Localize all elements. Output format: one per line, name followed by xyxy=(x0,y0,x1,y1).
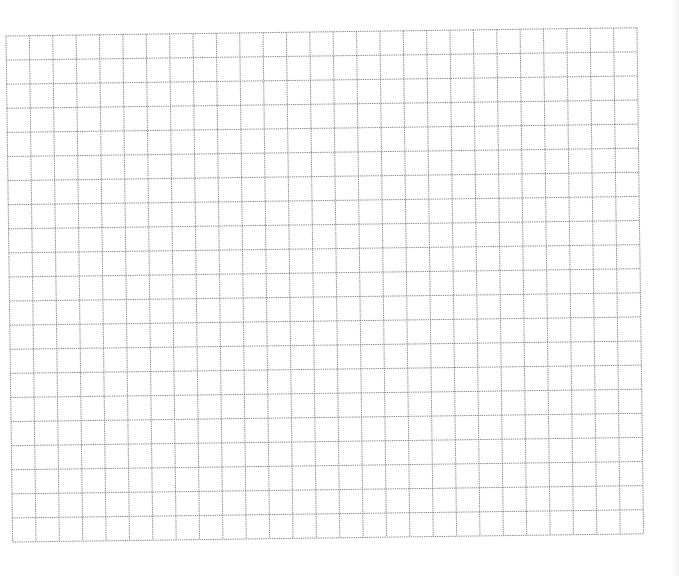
grid-vertical-line xyxy=(99,35,106,541)
grid-horizontal-line xyxy=(7,100,638,108)
grid-vertical-line xyxy=(427,30,434,536)
grid-vertical-line xyxy=(497,30,504,536)
grid-vertical-line xyxy=(590,28,597,534)
grid-vertical-line xyxy=(614,28,621,534)
grid-horizontal-line xyxy=(8,196,639,204)
grid-horizontal-line xyxy=(13,534,644,542)
grid-lines xyxy=(0,0,679,576)
grid-horizontal-line xyxy=(9,245,640,253)
grid-line-group xyxy=(6,28,644,542)
grid-horizontal-line xyxy=(9,269,640,277)
grid-horizontal-line xyxy=(11,437,642,445)
grid-vertical-line xyxy=(567,29,574,535)
grid-horizontal-line xyxy=(8,172,639,180)
grid-horizontal-line xyxy=(12,486,643,494)
grid-horizontal-line xyxy=(11,413,642,421)
grid-vertical-line xyxy=(450,30,457,536)
grid-horizontal-line xyxy=(12,510,643,518)
grid-vertical-line xyxy=(193,34,200,540)
grid-horizontal-line xyxy=(10,317,641,325)
grid-horizontal-line xyxy=(7,124,638,132)
grid-vertical-line xyxy=(170,34,177,540)
grid-vertical-line xyxy=(216,33,223,539)
grid-horizontal-line xyxy=(6,28,637,36)
grid-vertical-line xyxy=(76,35,83,541)
grid-horizontal-line xyxy=(10,341,641,349)
grid-horizontal-line xyxy=(11,389,642,397)
scan-edge-shade xyxy=(671,0,679,576)
grid-vertical-line xyxy=(263,33,270,539)
grid-paper-sheet xyxy=(0,0,679,576)
grid-vertical-line xyxy=(403,31,410,537)
grid-horizontal-line xyxy=(9,221,640,229)
grid-vertical-line xyxy=(637,28,644,534)
grid-vertical-line xyxy=(123,34,130,540)
grid xyxy=(0,0,679,576)
grid-vertical-line xyxy=(29,36,36,542)
grid-horizontal-line xyxy=(7,76,638,84)
grid-horizontal-line xyxy=(9,293,640,301)
grid-horizontal-line xyxy=(12,462,643,470)
grid-horizontal-line xyxy=(6,52,637,60)
grid-vertical-line xyxy=(310,32,317,538)
grid-vertical-line xyxy=(333,32,340,538)
grid-vertical-line xyxy=(357,31,364,537)
grid-vertical-line xyxy=(520,29,527,535)
grid-vertical-line xyxy=(380,31,387,537)
grid-vertical-line xyxy=(53,35,60,541)
grid-vertical-line xyxy=(240,33,247,539)
grid-vertical-line xyxy=(146,34,153,540)
grid-vertical-line xyxy=(473,30,480,536)
grid-vertical-line xyxy=(6,36,13,542)
grid-horizontal-line xyxy=(10,365,641,373)
grid-vertical-line xyxy=(286,32,293,538)
grid-horizontal-line xyxy=(8,148,639,156)
grid-vertical-line xyxy=(543,29,550,535)
